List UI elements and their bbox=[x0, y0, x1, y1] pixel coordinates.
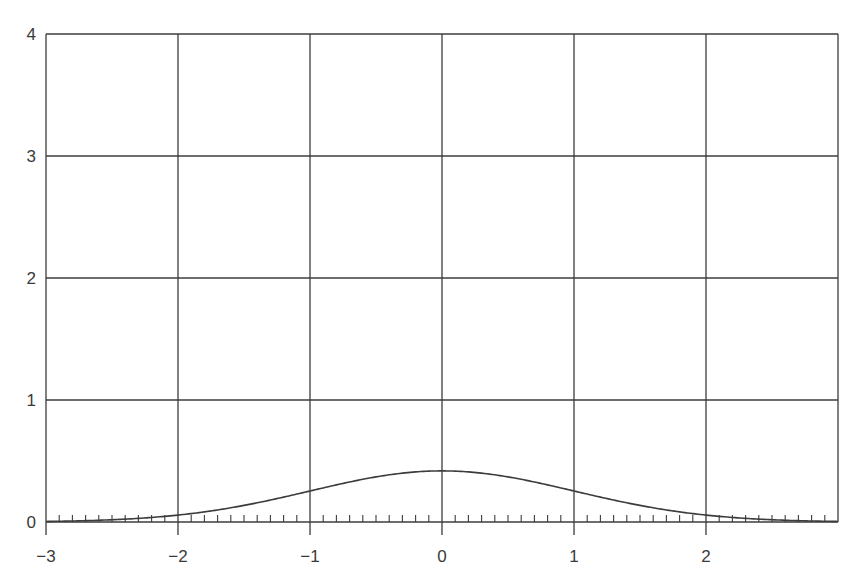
y-axis-labels: 01234 bbox=[27, 25, 36, 532]
y-tick-label: 0 bbox=[27, 513, 36, 532]
x-tick-label: −3 bbox=[36, 547, 55, 566]
normal-density-chart: 01234 −3−2−1012 bbox=[0, 0, 864, 584]
y-tick-label: 1 bbox=[27, 391, 36, 410]
x-tick-label: 2 bbox=[701, 547, 710, 566]
x-tick-label: 1 bbox=[569, 547, 578, 566]
grid-lines bbox=[46, 34, 838, 535]
x-tick-label: 0 bbox=[437, 547, 446, 566]
x-tick-label: −2 bbox=[168, 547, 187, 566]
y-tick-label: 4 bbox=[27, 25, 36, 44]
x-axis-labels: −3−2−1012 bbox=[36, 547, 710, 566]
y-tick-label: 2 bbox=[27, 269, 36, 288]
y-tick-label: 3 bbox=[27, 147, 36, 166]
x-tick-label: −1 bbox=[300, 547, 319, 566]
